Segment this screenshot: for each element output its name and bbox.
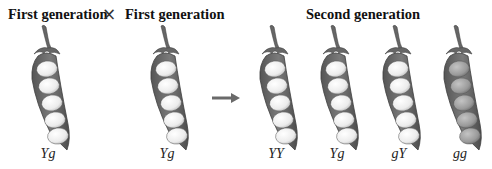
first-generation-label-left: First generation	[8, 6, 107, 23]
genotype-label: Yg	[28, 146, 68, 162]
genotype-label: Yg	[317, 146, 357, 162]
pea-pod-yg-1	[139, 24, 195, 154]
pea-pod-yy-2	[248, 24, 304, 154]
pea-pod-yg-3	[309, 24, 365, 154]
genotype-label: Yg	[147, 146, 187, 162]
cross-symbol: ×	[102, 4, 116, 24]
pea-pod-icon	[20, 24, 76, 154]
pea-pod-gg-5	[432, 24, 488, 154]
pea-pod-icon	[309, 24, 365, 154]
second-generation-label: Second generation	[306, 6, 420, 23]
genotype-label: gY	[379, 146, 419, 162]
pea-pod-yg-0	[20, 24, 76, 154]
first-generation-label-right: First generation	[125, 6, 224, 23]
genotype-label: YY	[256, 146, 296, 162]
genotype-label: gg	[440, 146, 480, 162]
pea-pod-icon	[432, 24, 488, 154]
pea-pod-icon	[139, 24, 195, 154]
pea-pod-icon	[248, 24, 304, 154]
pea-pod-gy-4	[371, 24, 427, 154]
arrow-right-icon	[212, 93, 240, 103]
pea-pod-icon	[371, 24, 427, 154]
